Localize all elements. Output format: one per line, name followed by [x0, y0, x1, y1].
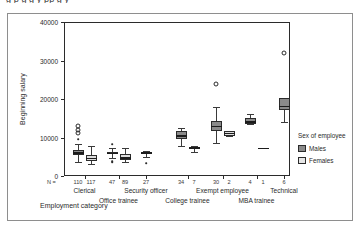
boxplot-outlier-marker — [145, 162, 147, 164]
boxplot-whisker-cap — [191, 152, 198, 153]
boxplot-median-line — [120, 157, 131, 159]
legend-item-females: Females — [298, 157, 354, 164]
boxplot-median-line — [211, 126, 222, 128]
boxplot-extreme-marker — [76, 123, 81, 128]
y-tick-label: 10000 — [8, 134, 58, 141]
n-value: 27 — [143, 179, 149, 185]
boxplot-whisker-cap — [75, 144, 82, 145]
n-value: 6 — [282, 179, 285, 185]
category-label: College trainee — [165, 197, 209, 204]
y-tick-mark — [61, 138, 64, 139]
x-tick-mark — [85, 176, 86, 179]
figure-frame: 010000200003000040000 Beginning salary N… — [7, 13, 353, 221]
category-label: Clerical — [74, 187, 96, 194]
y-tick-mark — [61, 61, 64, 62]
boxplot-median-line — [107, 153, 118, 155]
x-tick-mark — [146, 176, 147, 179]
boxplot-single-value-line — [258, 148, 269, 150]
boxplot-box — [279, 98, 290, 110]
legend: Sex of employee Males Females — [298, 132, 354, 169]
boxplot-outlier-marker — [77, 138, 79, 140]
chart-screenshot: g p g g y pp g y 010000200003000040000 B… — [0, 0, 362, 236]
boxplot-whisker-cap — [88, 164, 95, 165]
boxplot-whisker-cap — [75, 162, 82, 163]
legend-label-females: Females — [309, 157, 334, 164]
n-value: 30 — [213, 179, 219, 185]
boxplot-whisker-cap — [281, 122, 288, 123]
boxplot-extreme-marker — [282, 50, 287, 55]
boxplot-median-line — [245, 121, 256, 123]
n-value: 2 — [227, 179, 230, 185]
category-label: MBA trainee — [239, 197, 275, 204]
boxplot-median-line — [73, 152, 84, 154]
axes-panel — [64, 22, 290, 176]
boxplot-median-line — [279, 106, 290, 108]
boxplot-outlier-marker — [111, 144, 113, 146]
plot-area: 010000200003000040000 Beginning salary N… — [8, 14, 354, 222]
y-tick-mark — [61, 99, 64, 100]
x-tick-mark — [284, 176, 285, 179]
category-label: Exempt employee — [196, 187, 249, 194]
boxplot-whisker-cap — [122, 148, 129, 149]
n-row-label: N = — [47, 179, 56, 185]
x-tick-mark — [223, 176, 224, 179]
category-label: Technical — [270, 187, 298, 194]
boxplot-whisker-cap — [143, 157, 150, 158]
axes-top-spine — [64, 22, 290, 23]
boxplot-whisker-cap — [88, 146, 95, 147]
boxplot-whisker-cap — [247, 114, 254, 115]
y-tick-label: 30000 — [8, 57, 58, 64]
boxplot-median-line — [141, 152, 152, 154]
boxplot-median-line — [224, 133, 235, 135]
y-axis-title: Beginning salary — [19, 73, 26, 125]
x-tick-mark — [119, 176, 120, 179]
boxplot-whisker-cap — [178, 128, 185, 129]
y-tick-label: 40000 — [8, 19, 58, 26]
boxplot-extreme-marker — [214, 81, 219, 86]
boxplot-whisker-cap — [213, 107, 220, 108]
boxplot-whisker-cap — [109, 158, 116, 159]
legend-label-males: Males — [309, 145, 326, 152]
n-value: 110 — [74, 179, 83, 185]
boxplot-whisker-cap — [247, 124, 254, 125]
boxplot-whisker-cap — [122, 162, 129, 163]
n-value: 1 — [261, 179, 264, 185]
boxplot-median-line — [176, 135, 187, 137]
y-tick-mark — [61, 22, 64, 23]
boxplot-whisker-cap — [226, 136, 233, 137]
clipped-caption-text: g p g g y pp g y — [6, 0, 356, 3]
legend-swatch-females-icon — [298, 157, 306, 164]
boxplot-whisker-cap — [178, 146, 185, 147]
n-value: 7 — [192, 179, 195, 185]
boxplot-median-line — [189, 147, 200, 149]
x-tick-mark — [188, 176, 189, 179]
x-axis-title: Employment category — [40, 202, 108, 209]
n-value: 89 — [122, 179, 128, 185]
boxplot-outlier-marker — [111, 160, 113, 162]
n-value: 47 — [109, 179, 115, 185]
n-value: 34 — [178, 179, 184, 185]
legend-title: Sex of employee — [298, 132, 354, 139]
y-tick-label: 20000 — [8, 96, 58, 103]
y-tick-mark — [61, 176, 64, 177]
n-value: 117 — [87, 179, 96, 185]
boxplot-median-line — [86, 158, 97, 160]
legend-swatch-males-icon — [298, 145, 306, 152]
boxplot-whisker-cap — [213, 143, 220, 144]
x-tick-mark — [257, 176, 258, 179]
n-value: 4 — [248, 179, 251, 185]
category-label: Security officer — [124, 187, 168, 194]
boxplot-whisker-cap — [109, 148, 116, 149]
legend-item-males: Males — [298, 145, 354, 152]
